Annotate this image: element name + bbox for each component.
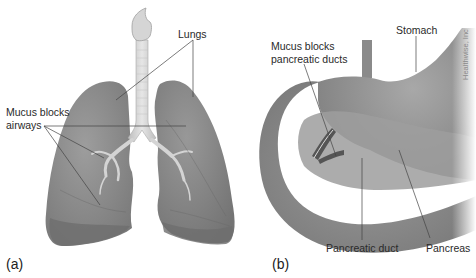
- panel-a-letter: (a): [6, 256, 23, 272]
- lungs-illustration: [46, 8, 235, 246]
- image-credit: Healthwise, Inc: [461, 29, 470, 80]
- label-stomach: Stomach: [396, 24, 437, 36]
- label-lungs: Lungs: [178, 28, 207, 40]
- panel-b-letter: (b): [272, 256, 289, 272]
- trachea-shape: [128, 40, 156, 142]
- larynx-shape: [132, 8, 152, 41]
- cystic-fibrosis-figure: Lungs Mucus blocks airways (a) Stomach M…: [0, 0, 476, 278]
- label-mucus-ducts-line1: Mucus blocks: [271, 40, 335, 52]
- label-mucus-airways-line2: airways: [6, 119, 42, 131]
- label-pancreatic-duct: Pancreatic duct: [326, 242, 398, 254]
- label-mucus-airways-line1: Mucus blocks: [6, 106, 70, 118]
- label-mucus-ducts-line2: pancreatic ducts: [271, 53, 347, 65]
- label-pancreas: Pancreas: [426, 242, 470, 254]
- illustration: [0, 0, 476, 278]
